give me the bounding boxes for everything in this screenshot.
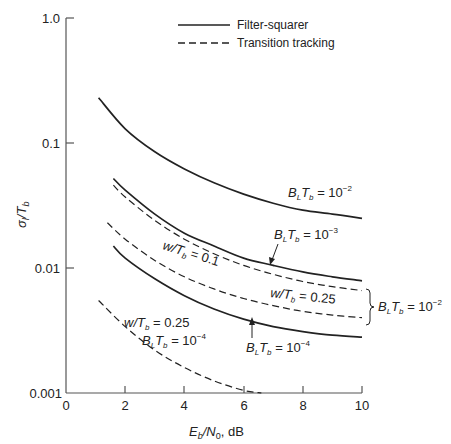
- y-axis-title: σl/Tb: [14, 202, 31, 228]
- x-tick-label: 8: [299, 398, 306, 413]
- x-tick-label: 6: [240, 398, 247, 413]
- y-tick-label: 0.001: [29, 386, 62, 401]
- annotation-w-0-25: w/Tb = 0.25: [269, 285, 336, 309]
- annotation-bltb-1e-2-top: BLTb = 10−2: [288, 184, 352, 202]
- x-tick-label: 10: [355, 398, 369, 413]
- arrow-icon: [269, 244, 278, 265]
- curves: [99, 98, 362, 393]
- y-tick-label: 1.0: [42, 11, 60, 26]
- x-tick-label: 2: [121, 398, 128, 413]
- y-tick-label: 0.01: [35, 261, 60, 276]
- annotation-bottom-bltb: BLTb = 10−4: [142, 332, 206, 350]
- annotation-w-0-1: w/Tb = 0.1: [161, 238, 222, 271]
- brace-icon: [366, 289, 374, 325]
- annotation-bottom-w: w/Tb = 0.25: [124, 315, 190, 332]
- x-tick-label: 4: [180, 398, 187, 413]
- legend-label-transition-tracking: Transition tracking: [237, 36, 335, 50]
- y-tick-label: 0.1: [42, 136, 60, 151]
- annotation-bltb-1e-2-brace: BLTb = 10−2: [378, 298, 442, 316]
- x-axis-title: Eb/N0, dB: [189, 424, 244, 441]
- line-chart: 1.0 0.1 0.01 0.001 0 2 4 6 8 10 Eb/N0, d…: [0, 0, 451, 444]
- y-axis: [66, 18, 74, 393]
- x-axis: [66, 386, 362, 393]
- x-tick-label: 0: [62, 398, 69, 413]
- legend-label-filter-squarer: Filter-squarer: [237, 18, 308, 32]
- annotation-bltb-1e-4: BLTb = 10−4: [246, 339, 310, 357]
- annotation-bltb-1e-3: BLTb = 10−3: [274, 226, 338, 244]
- legend: Filter-squarer Transition tracking: [178, 18, 335, 50]
